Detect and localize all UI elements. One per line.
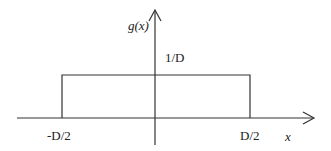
height-label: 1/D [165,50,185,65]
right-edge-label: D/2 [240,128,260,143]
x-axis-label: x [284,129,291,144]
rect-pulse [62,75,250,118]
rect-function-diagram: g(x) 1/D -D/2 D/2 x [0,0,331,151]
function-label: g(x) [128,18,149,33]
left-edge-label: -D/2 [47,128,71,143]
